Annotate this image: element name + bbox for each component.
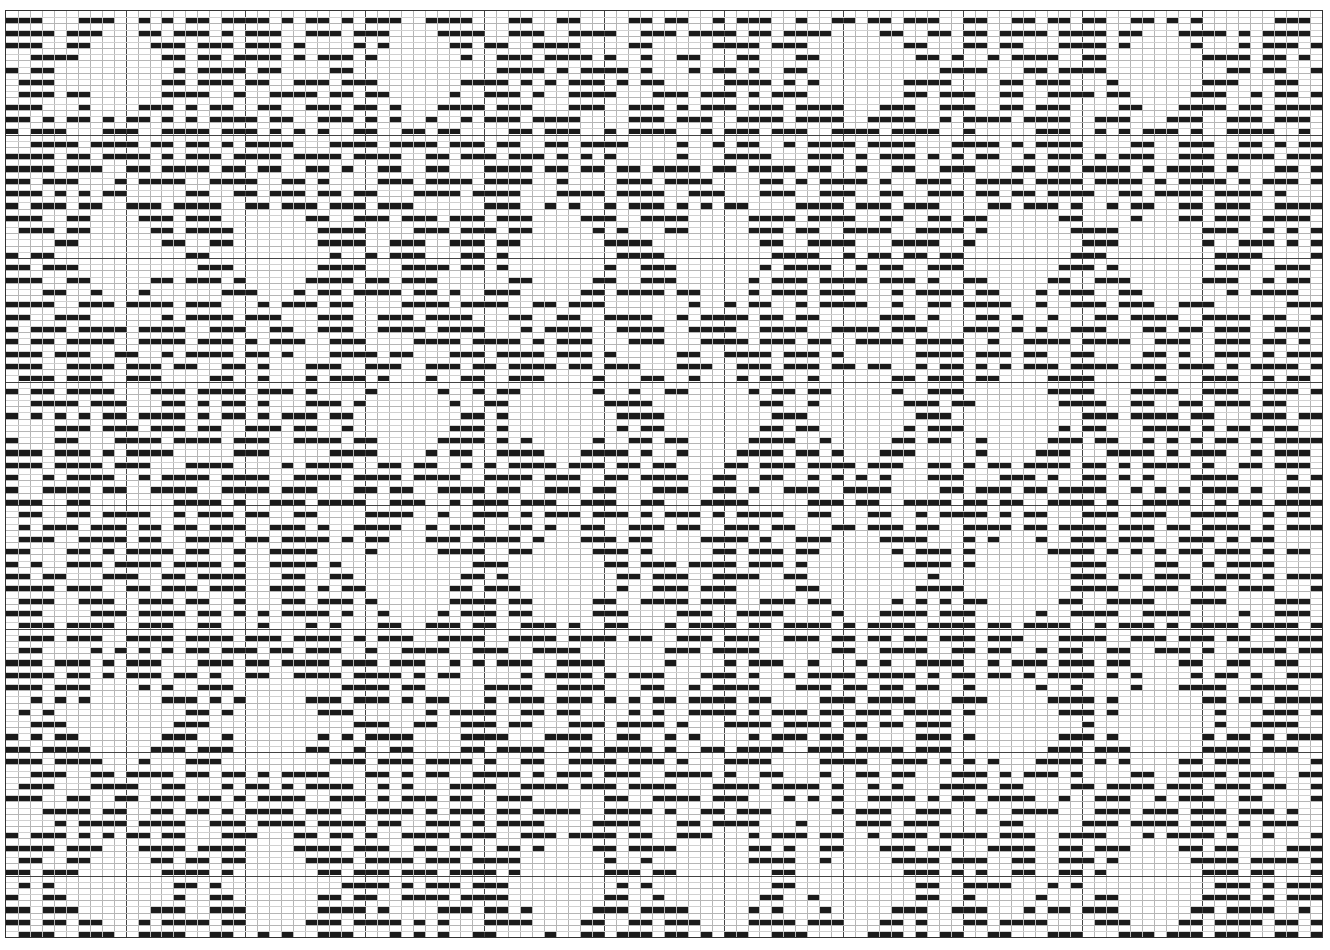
grid-half-row-line: [6, 548, 1322, 549]
grid-half-row-line: [6, 351, 1322, 352]
grid-half-row-line: [6, 54, 1322, 55]
grid-row-line: [6, 295, 1322, 296]
grid-row-line: [6, 344, 1322, 345]
grid-half-row-line: [6, 647, 1322, 648]
grid-half-row-line: [6, 536, 1322, 537]
grid-half-row-line: [6, 437, 1322, 438]
grid-half-row-line: [6, 499, 1322, 500]
grid-half-row-line: [6, 585, 1322, 586]
grid-half-row-line: [6, 202, 1322, 203]
grid-half-row-line: [6, 919, 1322, 920]
grid-half-row-line: [6, 227, 1322, 228]
grid-row-line: [6, 357, 1322, 358]
grid-row-line: [6, 517, 1322, 518]
grid-row-line: [6, 629, 1322, 630]
grid-row-line: [6, 591, 1322, 592]
grid-row-line: [6, 258, 1322, 259]
grid-row-line: [6, 666, 1322, 667]
grid-half-row-line: [6, 314, 1322, 315]
grid-half-row-line: [6, 820, 1322, 821]
grid-row-line: [6, 110, 1322, 111]
grid-half-row-line: [6, 894, 1322, 895]
grid-half-row-line: [6, 746, 1322, 747]
grid-half-row-line: [6, 696, 1322, 697]
grid-row-line: [6, 382, 1322, 383]
grid-row-line: [6, 85, 1322, 86]
grid-half-row-line: [6, 524, 1322, 525]
grid-half-row-line: [6, 598, 1322, 599]
grid-row-line: [6, 394, 1322, 395]
grid-half-row-line: [6, 486, 1322, 487]
grid-row-line: [6, 641, 1322, 642]
grid-half-row-line: [6, 931, 1322, 932]
grid-half-row-line: [6, 67, 1322, 68]
grid-row-line: [6, 567, 1322, 568]
grid-row-line: [6, 307, 1322, 308]
grid-row-line: [6, 147, 1322, 148]
grid-half-row-line: [6, 116, 1322, 117]
grid-row-line: [6, 727, 1322, 728]
grid-row-line: [6, 616, 1322, 617]
grid-row-line: [6, 135, 1322, 136]
grid-half-row-line: [6, 882, 1322, 883]
grid-row-line: [6, 60, 1322, 61]
grid-row-line: [6, 838, 1322, 839]
grid-row-line: [6, 48, 1322, 49]
grid-half-row-line: [6, 906, 1322, 907]
grid-row-line: [6, 456, 1322, 457]
grid-half-row-line: [6, 610, 1322, 611]
grid-row-line: [6, 36, 1322, 37]
grid-half-row-line: [6, 783, 1322, 784]
grid-row-line: [6, 913, 1322, 914]
grid-half-row-line: [6, 845, 1322, 846]
grid-row-line: [6, 246, 1322, 247]
grid-half-row-line: [6, 449, 1322, 450]
grid-row-line: [6, 431, 1322, 432]
grid-row-line: [6, 801, 1322, 802]
grid-half-row-line: [6, 832, 1322, 833]
grid-row-line: [6, 863, 1322, 864]
grid-half-row-line: [6, 388, 1322, 389]
grid-half-row-line: [6, 190, 1322, 191]
grid-row-line: [6, 542, 1322, 543]
grid-row-line: [6, 233, 1322, 234]
grid-row-line: [6, 579, 1322, 580]
grid-half-row-line: [6, 252, 1322, 253]
grid-half-row-line: [6, 635, 1322, 636]
grid-row-line: [6, 369, 1322, 370]
grid-half-row-line: [6, 363, 1322, 364]
grid-row-line: [6, 888, 1322, 889]
grid-row-line: [6, 900, 1322, 901]
grid-row-line: [6, 320, 1322, 321]
grid-half-row-line: [6, 561, 1322, 562]
grid-half-row-line: [6, 178, 1322, 179]
grid-half-row-line: [6, 672, 1322, 673]
grid-row-line: [6, 777, 1322, 778]
grid-row-line: [6, 419, 1322, 420]
grid-row-line: [6, 406, 1322, 407]
grid-half-row-line: [6, 91, 1322, 92]
grid-half-row-line: [6, 79, 1322, 80]
grid-row-line: [6, 715, 1322, 716]
grid-row-line: [6, 505, 1322, 506]
grid-half-row-line: [6, 808, 1322, 809]
grid-half-row-line: [6, 338, 1322, 339]
grid-row-line: [6, 678, 1322, 679]
grid-row-line: [6, 703, 1322, 704]
grid-row-line: [6, 209, 1322, 210]
grid-half-row-line: [6, 301, 1322, 302]
grid-row-line: [6, 332, 1322, 333]
grid-row-line: [6, 752, 1322, 753]
grid-half-row-line: [6, 153, 1322, 154]
grid-row-line: [6, 97, 1322, 98]
grid-row-line: [6, 221, 1322, 222]
grid-half-row-line: [6, 30, 1322, 31]
grid-half-row-line: [6, 42, 1322, 43]
grid-row-line: [6, 740, 1322, 741]
grid-half-row-line: [6, 573, 1322, 574]
grid-half-row-line: [6, 733, 1322, 734]
grid-row-line: [6, 764, 1322, 765]
grid-row-line: [6, 789, 1322, 790]
grid-row-line: [6, 925, 1322, 926]
grid-row-line: [6, 480, 1322, 481]
